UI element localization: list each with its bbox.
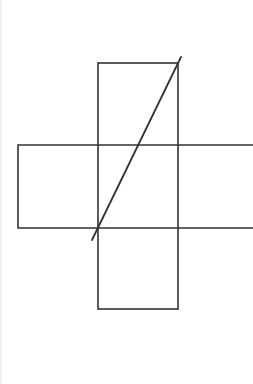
diagram-canvas bbox=[0, 0, 253, 384]
horizontal-strip bbox=[18, 145, 253, 228]
diagonal-line bbox=[92, 57, 181, 240]
cross-net-figure bbox=[0, 0, 253, 384]
page-edge-shade bbox=[0, 0, 3, 384]
vertical-strip bbox=[98, 63, 178, 309]
